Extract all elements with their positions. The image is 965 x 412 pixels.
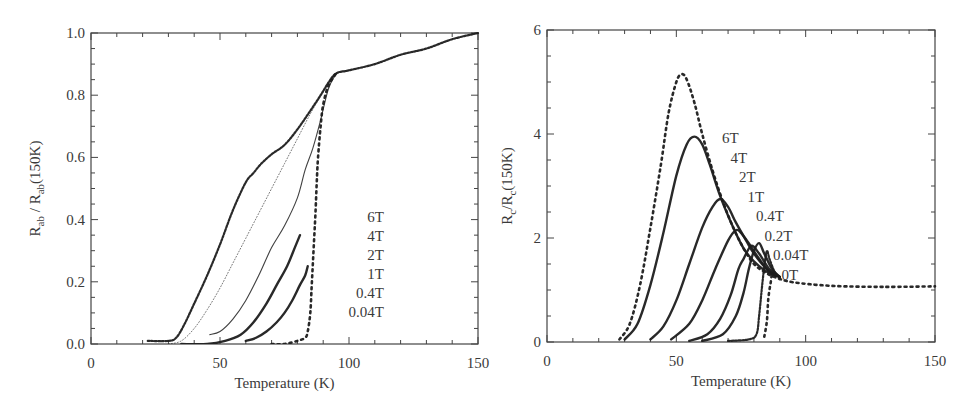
- series-1T-curve: [671, 230, 780, 340]
- x-axis-title: Temperature (K): [691, 373, 791, 390]
- series-6T-curve: [619, 74, 935, 339]
- legend-label: 0.4T: [356, 285, 384, 301]
- legend-label: 0.4T: [756, 208, 784, 224]
- y-tick-label: 0.0: [66, 336, 85, 352]
- y-tick-label: 0.4: [66, 212, 85, 228]
- legend-label: 6T: [367, 209, 384, 225]
- x-tick-label: 50: [213, 355, 228, 371]
- y-tick-label: 2: [534, 230, 542, 246]
- y-tick-label: 0: [534, 334, 542, 350]
- series-0_04T-curve: [272, 73, 337, 344]
- y-tick-label: 6: [534, 22, 542, 38]
- y-tick-label: 1.0: [66, 25, 85, 41]
- legend-label: 0T: [782, 267, 799, 283]
- series-1T-curve: [181, 235, 300, 344]
- x-tick-label: 100: [794, 353, 817, 369]
- legend-label: 4T: [367, 228, 384, 244]
- series-4T-curve: [168, 70, 349, 344]
- series-6T-curve: [148, 33, 478, 341]
- y-tick-label: 0.8: [66, 87, 85, 103]
- legend-label: 1T: [748, 189, 765, 205]
- legend-label: 0.2T: [765, 228, 793, 244]
- series-0_4T-curve: [246, 266, 308, 341]
- legend-label: 2T: [367, 247, 384, 263]
- y-tick-label: 0.2: [66, 274, 85, 290]
- legend-label: 0.04T: [773, 247, 808, 263]
- y-axis-title: Rab / Rab(150K): [27, 141, 46, 237]
- left-chart-panel: 0501001500.00.20.40.60.81.0Temperature (…: [27, 25, 489, 392]
- y-axis-title: Rc/Rc(150K): [499, 147, 518, 224]
- x-tick-label: 150: [924, 353, 947, 369]
- legend-label: 2T: [739, 169, 756, 185]
- x-axis-title: Temperature (K): [234, 375, 334, 392]
- data-series-group: [148, 33, 478, 344]
- x-tick-label: 150: [467, 355, 490, 371]
- legend-label: 0.04T: [349, 304, 384, 320]
- plot-frame: [547, 30, 935, 342]
- legend-label: 4T: [731, 150, 748, 166]
- legend-label: 6T: [722, 130, 739, 146]
- x-tick-label: 0: [543, 353, 551, 369]
- y-tick-label: 0.6: [66, 149, 85, 165]
- right-chart-panel: 0501001500246Temperature (K)Rc/Rc(150K)6…: [499, 22, 946, 390]
- plot-frame: [91, 33, 478, 344]
- series-0T-curve: [764, 274, 780, 337]
- legend-label: 1T: [367, 266, 384, 282]
- x-tick-label: 50: [669, 353, 684, 369]
- x-tick-label: 0: [87, 355, 95, 371]
- y-tick-label: 4: [534, 126, 542, 142]
- figure: 0501001500.00.20.40.60.81.0Temperature (…: [0, 0, 965, 412]
- x-tick-label: 100: [338, 355, 361, 371]
- series-4T-curve: [625, 137, 780, 340]
